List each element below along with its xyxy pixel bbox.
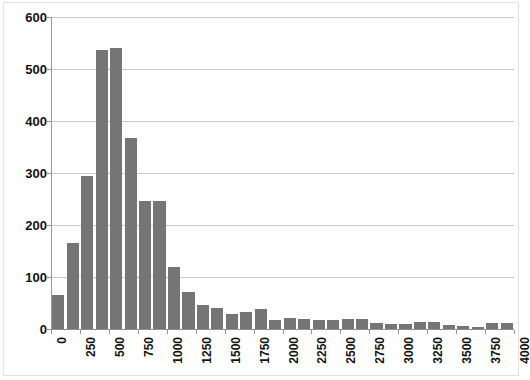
x-tick-label: 2000	[288, 337, 300, 364]
x-tick-mark	[514, 330, 515, 334]
histogram-bar	[211, 308, 223, 329]
x-tick-mark	[340, 330, 341, 334]
y-tick-label: 400	[7, 115, 47, 128]
x-tick-mark	[196, 330, 197, 334]
plot-area	[51, 17, 514, 329]
x-tick-label: 2500	[345, 337, 357, 364]
y-tick-mark	[47, 225, 51, 226]
y-tick-mark	[47, 277, 51, 278]
x-tick-mark	[283, 330, 284, 334]
histogram-bar	[269, 320, 281, 329]
x-tick-label: 1250	[201, 337, 213, 364]
y-tick-mark	[47, 69, 51, 70]
histogram-bar	[414, 322, 426, 329]
x-tick-mark	[51, 330, 52, 334]
y-tick-label: 200	[7, 219, 47, 232]
histogram-bar	[67, 243, 79, 329]
x-tick-label: 1500	[230, 337, 242, 364]
x-tick-mark	[369, 330, 370, 334]
histogram-bar	[81, 176, 93, 329]
x-tick-mark	[311, 330, 312, 334]
y-tick-mark	[47, 173, 51, 174]
gridline-y	[51, 17, 514, 18]
y-tick-mark	[47, 17, 51, 18]
x-tick-mark	[456, 330, 457, 334]
x-tick-label: 3000	[403, 337, 415, 364]
histogram-bar	[52, 295, 64, 329]
y-tick-label: 100	[7, 271, 47, 284]
y-tick-label: 500	[7, 63, 47, 76]
histogram-bar	[197, 305, 209, 329]
y-tick-label: 300	[7, 167, 47, 180]
histogram-bar	[168, 267, 180, 329]
x-tick-mark	[80, 330, 81, 334]
x-tick-mark	[427, 330, 428, 334]
histogram-bar	[356, 319, 368, 329]
histogram-bar	[240, 312, 252, 329]
histogram-bar	[284, 318, 296, 329]
histogram-bar	[342, 319, 354, 329]
x-tick-label: 500	[114, 337, 126, 357]
x-tick-label: 250	[85, 337, 97, 357]
x-tick-label: 0	[56, 337, 68, 344]
histogram-bar	[255, 309, 267, 329]
chart-frame: 0100200300400500600 02505007501000125015…	[3, 2, 519, 376]
x-tick-label: 3250	[432, 337, 444, 364]
histogram-bar	[110, 48, 122, 329]
histogram-bar	[96, 50, 108, 329]
x-tick-mark	[254, 330, 255, 334]
x-tick-mark	[225, 330, 226, 334]
x-tick-label: 3500	[461, 337, 473, 364]
x-tick-label: 2250	[316, 337, 328, 364]
histogram-bar	[226, 314, 238, 329]
x-tick-mark	[485, 330, 486, 334]
histogram-bar	[153, 201, 165, 329]
x-tick-label: 4000	[519, 337, 530, 364]
x-tick-label: 2750	[374, 337, 386, 364]
histogram-bar	[428, 322, 440, 329]
x-tick-mark	[138, 330, 139, 334]
histogram-bar	[125, 138, 137, 329]
x-tick-label: 1000	[172, 337, 184, 364]
x-tick-label: 3750	[490, 337, 502, 364]
x-tick-label: 750	[143, 337, 155, 357]
y-tick-label: 600	[7, 11, 47, 24]
histogram-bar	[327, 320, 339, 329]
y-axis-labels: 0100200300400500600	[4, 3, 47, 380]
histogram-bar	[298, 319, 310, 329]
x-tick-mark	[167, 330, 168, 334]
histogram-bar	[139, 201, 151, 329]
x-tick-mark	[109, 330, 110, 334]
y-axis-line	[51, 17, 52, 329]
histogram-bar	[182, 292, 194, 329]
y-tick-mark	[47, 121, 51, 122]
x-tick-label: 1750	[259, 337, 271, 364]
histogram-bar	[313, 320, 325, 329]
x-tick-mark	[398, 330, 399, 334]
y-tick-label: 0	[7, 323, 47, 336]
